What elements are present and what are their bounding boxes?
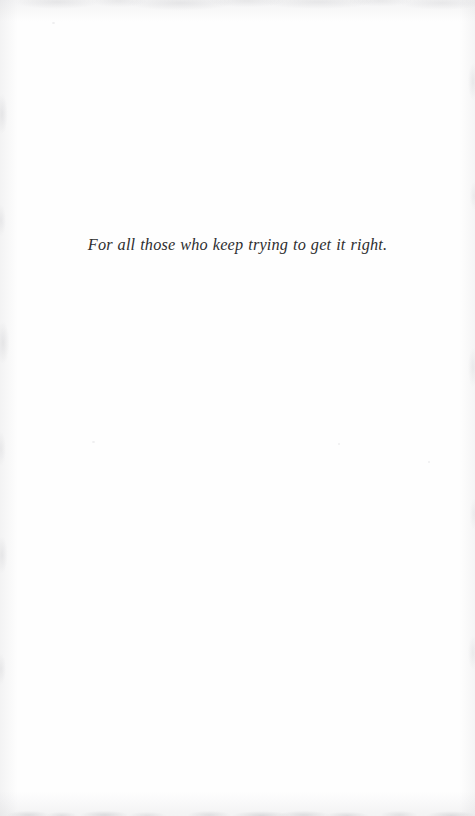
paper-speck xyxy=(428,461,430,463)
paper-speck xyxy=(338,443,340,445)
page-edge-left-shadow xyxy=(0,0,20,816)
dedication-page: For all those who keep trying to get it … xyxy=(0,0,475,816)
page-edge-bottom-shadow xyxy=(0,786,475,816)
scan-noise-overlay xyxy=(0,0,475,816)
page-edge-top-shadow xyxy=(0,0,475,26)
paper-speck xyxy=(52,22,55,24)
page-edge-right-shadow xyxy=(457,0,475,816)
dedication-block: For all those who keep trying to get it … xyxy=(0,234,475,256)
dedication-text: For all those who keep trying to get it … xyxy=(88,234,387,256)
paper-speck xyxy=(92,441,95,443)
